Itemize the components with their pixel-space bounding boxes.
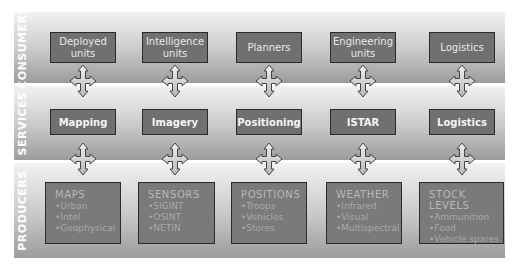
producer-sensors: SENSORS •SIGINT •OSINT •NETIN bbox=[138, 182, 215, 244]
four-way-arrow-icon bbox=[448, 142, 476, 176]
producer-weather: WEATHER •Infrared •Visual •Multispectral bbox=[326, 182, 402, 244]
four-way-arrow-icon bbox=[349, 64, 377, 98]
service-positioning: Positioning bbox=[236, 109, 302, 135]
producer-maps: MAPS •Urban •Intel •Geophysical bbox=[45, 182, 121, 244]
service-mapping: Mapping bbox=[50, 109, 116, 135]
service-logistics: Logistics bbox=[429, 109, 495, 135]
consumers-label: CONSUMERS bbox=[14, 12, 30, 83]
four-way-arrow-icon bbox=[161, 142, 189, 176]
four-way-arrow-icon bbox=[69, 64, 97, 98]
consumer-intelligence-units: Intelligence units bbox=[142, 32, 208, 63]
producer-stock-levels: STOCK LEVELS •Ammunition •Food •Vehicle … bbox=[419, 182, 504, 244]
four-way-arrow-icon bbox=[448, 64, 476, 98]
four-way-arrow-icon bbox=[161, 64, 189, 98]
consumer-deployed-units: Deployed units bbox=[50, 32, 116, 63]
services-label: SERVICES bbox=[14, 86, 30, 160]
four-way-arrow-icon bbox=[255, 142, 283, 176]
producer-positions: POSITIONS •Troops •Vehicles •Stores bbox=[231, 182, 307, 244]
service-imagery: Imagery bbox=[142, 109, 208, 135]
consumer-planners: Planners bbox=[236, 32, 302, 63]
producers-label: PRODUCERS bbox=[14, 163, 30, 258]
consumer-logistics: Logistics bbox=[429, 32, 495, 63]
four-way-arrow-icon bbox=[255, 64, 283, 98]
four-way-arrow-icon bbox=[349, 142, 377, 176]
consumer-engineering-units: Engineering units bbox=[330, 32, 396, 63]
four-way-arrow-icon bbox=[69, 142, 97, 176]
service-istar: ISTAR bbox=[330, 109, 396, 135]
